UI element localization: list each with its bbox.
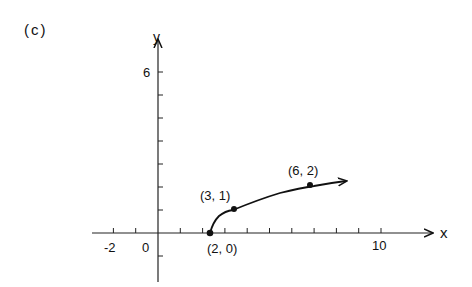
- graph: x y -2 0 10 6 (2, 0) (3, 1) (6, 2): [0, 0, 472, 287]
- y-tick-label-6: 6: [143, 65, 150, 80]
- x-tick-label-10: 10: [372, 238, 386, 253]
- y-axis-label: y: [153, 29, 160, 45]
- label-point-2-0: (2, 0): [207, 241, 237, 256]
- point-6-2: [307, 182, 313, 188]
- x-axis-label: x: [440, 224, 448, 241]
- label-point-6-2: (6, 2): [288, 163, 318, 178]
- x-ticks: [113, 228, 381, 233]
- x-tick-label-0: 0: [142, 240, 149, 255]
- x-tick-label-neg2: -2: [104, 240, 116, 255]
- y-ticks: [158, 72, 163, 256]
- point-3-1: [231, 206, 237, 212]
- label-point-3-1: (3, 1): [200, 188, 230, 203]
- point-2-0: [207, 230, 214, 237]
- sqrt-curve: [210, 181, 346, 233]
